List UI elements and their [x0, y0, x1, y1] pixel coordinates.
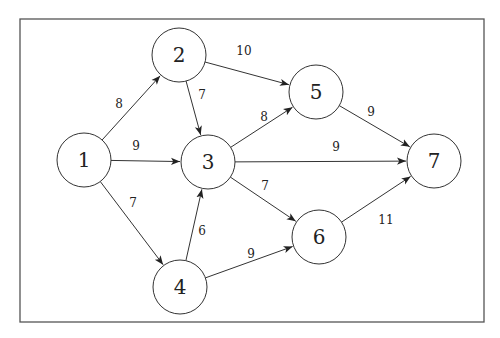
nodes-layer: 1234567: [57, 28, 461, 314]
edge-weight-label: 9: [247, 247, 255, 261]
node-5: 5: [289, 65, 343, 119]
node-6: 6: [292, 210, 346, 264]
node-3: 3: [181, 135, 235, 189]
node-label: 6: [313, 225, 326, 249]
edge-6-7: [342, 176, 411, 222]
node-1: 1: [57, 133, 111, 187]
network-diagram: 89771089769911 1234567: [0, 0, 500, 338]
node-label: 7: [428, 149, 441, 173]
node-4: 4: [153, 260, 207, 314]
node-label: 4: [174, 275, 187, 299]
edge-weight-label: 9: [132, 139, 140, 153]
edge-weight-label: 8: [260, 110, 268, 124]
edge-1-3: [111, 160, 180, 161]
edge-weight-label: 11: [378, 213, 393, 227]
edges-layer: 89771089769911: [100, 44, 410, 278]
edge-3-7: [235, 161, 406, 162]
edge-weight-label: 7: [261, 179, 269, 193]
node-7: 7: [407, 134, 461, 188]
node-label: 3: [202, 150, 215, 174]
edge-weight-label: 9: [332, 140, 340, 154]
edge-2-5: [205, 62, 289, 85]
edge-1-2: [102, 76, 160, 140]
edge-1-4: [100, 182, 163, 265]
node-label: 1: [78, 148, 91, 172]
edge-weight-label: 7: [129, 196, 137, 210]
node-2: 2: [152, 28, 206, 82]
node-label: 2: [173, 43, 186, 67]
edge-weight-label: 7: [198, 88, 206, 102]
edge-weight-label: 8: [115, 97, 123, 111]
node-label: 5: [310, 80, 323, 104]
edge-weight-label: 9: [367, 105, 375, 119]
edge-weight-label: 10: [236, 44, 251, 58]
edge-weight-label: 6: [198, 224, 206, 238]
